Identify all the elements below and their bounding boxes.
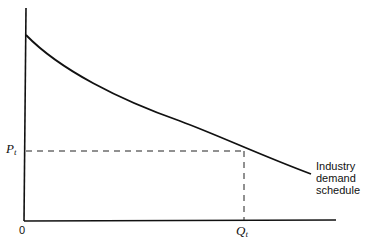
quantity-label-sub: t	[245, 229, 248, 239]
price-label-sub: t	[14, 147, 17, 157]
quantity-label: Qt	[236, 225, 248, 240]
demand-diagram	[0, 0, 367, 242]
x-axis	[24, 220, 336, 221]
price-label-base: P	[6, 141, 14, 156]
curve-label-line-2: demand	[316, 172, 360, 184]
curve-label-line-3: schedule	[316, 184, 360, 196]
origin-label: 0	[19, 224, 25, 236]
demand-curve	[26, 35, 311, 174]
y-axis	[24, 8, 26, 221]
curve-label: Industry demand schedule	[316, 160, 360, 196]
curve-label-line-1: Industry	[316, 160, 360, 172]
quantity-label-base: Q	[236, 223, 245, 238]
price-label: Pt	[6, 143, 16, 158]
